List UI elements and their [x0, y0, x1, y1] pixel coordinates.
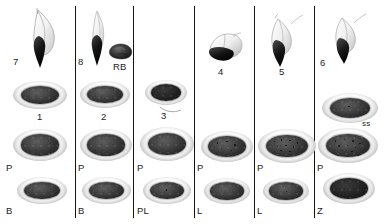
flagellate-specimen-7 — [22, 8, 66, 70]
column-divider-5 — [314, 6, 315, 218]
flagellate-specimen-6 — [327, 12, 369, 66]
column-divider-2 — [133, 6, 134, 218]
oval-b-2 — [82, 177, 131, 204]
label-oval-3: 3 — [161, 111, 166, 121]
oval-grain — [21, 134, 60, 155]
column-divider-1 — [75, 6, 76, 218]
label-residual-body: RB — [113, 62, 127, 72]
label-specimen-5: 5 — [279, 67, 284, 77]
label-b-2: B — [78, 206, 85, 216]
oval-specimen-2 — [80, 81, 130, 108]
flagellate-specimen-4 — [203, 30, 247, 66]
micrograph-plate: 7 8 — [0, 0, 389, 224]
flagellate-specimen-5 — [263, 14, 305, 68]
oval-b-1 — [17, 177, 67, 204]
oval-core — [151, 84, 181, 101]
label-p-4: P — [197, 163, 204, 173]
oval-p-1 — [13, 129, 67, 161]
oval-speckles — [269, 182, 302, 199]
label-z: Z — [317, 206, 323, 216]
oval-grain — [87, 134, 124, 155]
label-specimen-8: 8 — [78, 57, 83, 67]
oval-grain — [151, 84, 181, 101]
oval-p-5 — [258, 129, 316, 163]
oval-speckles — [208, 136, 245, 156]
oval-core — [330, 178, 367, 198]
oval-core — [87, 134, 124, 155]
oval-l-5 — [263, 178, 309, 204]
oval-speckles — [330, 98, 370, 118]
oval-p-2 — [80, 129, 132, 161]
label-specimen-7: 7 — [13, 57, 18, 67]
label-p-3: P — [137, 163, 144, 173]
residual-body-blob — [105, 42, 135, 61]
label-oval-2: 2 — [101, 112, 106, 122]
label-p-2: P — [78, 163, 85, 173]
label-oval-1: 1 — [37, 112, 42, 122]
oval-speckles — [326, 134, 369, 157]
label-p-6: P — [317, 163, 324, 173]
label-oval-ss: ss — [362, 120, 370, 128]
label-p-5: P — [257, 163, 264, 173]
label-l-4: L — [197, 206, 202, 216]
oval-specimen-1 — [13, 81, 67, 109]
label-specimen-6: 6 — [320, 58, 325, 68]
column-divider-3 — [194, 6, 195, 218]
oval-p-6 — [318, 128, 378, 163]
column-divider-4 — [254, 6, 255, 218]
oval-p-4 — [201, 131, 253, 162]
oval-grain — [210, 182, 243, 199]
oval-pl — [143, 177, 191, 204]
oval-grain — [330, 178, 367, 198]
label-b-1: B — [6, 206, 13, 216]
oval-l-4 — [204, 178, 250, 204]
label-pl: PL — [137, 206, 149, 216]
label-p-1: P — [6, 163, 13, 173]
label-l-5: L — [257, 206, 262, 216]
oval-core — [21, 134, 60, 155]
label-specimen-4: 4 — [218, 67, 223, 77]
oval-p-3 — [140, 127, 194, 161]
oval-z — [323, 173, 375, 204]
oval-speckles — [266, 135, 308, 157]
oval-core — [210, 182, 243, 199]
